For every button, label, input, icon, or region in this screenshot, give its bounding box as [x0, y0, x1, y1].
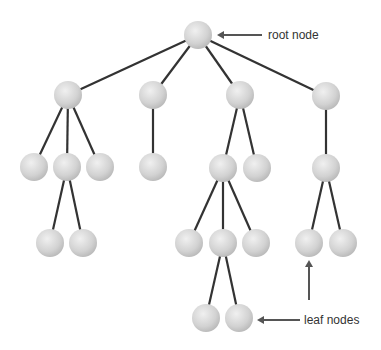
leaf-node-c1b1 — [192, 304, 220, 332]
leaf-node-a2b — [69, 229, 97, 257]
internal-node-b — [139, 81, 167, 109]
leaf-node-c1c — [242, 229, 270, 257]
edge-root-a — [68, 35, 198, 95]
leaf-node-c2 — [243, 154, 271, 182]
leaf-node-c1b2 — [225, 304, 253, 332]
leaf-node-a2a — [36, 229, 64, 257]
leaf-node-b1 — [139, 153, 167, 181]
leaf-node-d1b — [329, 229, 357, 257]
root-arrow-head — [217, 31, 224, 39]
root-node-label: root node — [268, 28, 319, 42]
internal-node-d1 — [312, 154, 340, 182]
leaf-node-c1a — [175, 229, 203, 257]
leaf-node-d1a — [295, 229, 323, 257]
root-node-root — [184, 21, 212, 49]
leaf-arrow-horizontal-head — [257, 316, 264, 324]
leaf-node-a1 — [20, 153, 48, 181]
tree-canvas: root node leaf nodes — [0, 0, 381, 350]
leaf-nodes-label: leaf nodes — [304, 313, 359, 327]
internal-node-c1b — [209, 229, 237, 257]
edge-root-d — [198, 35, 326, 96]
internal-node-a2 — [53, 153, 81, 181]
internal-node-d — [312, 82, 340, 110]
internal-node-c1 — [209, 154, 237, 182]
internal-node-a — [54, 81, 82, 109]
tree-diagram: root node leaf nodes — [0, 0, 381, 350]
internal-node-c — [226, 81, 254, 109]
leaf-node-a3 — [86, 153, 114, 181]
leaf-arrow-vertical-head — [305, 260, 313, 267]
